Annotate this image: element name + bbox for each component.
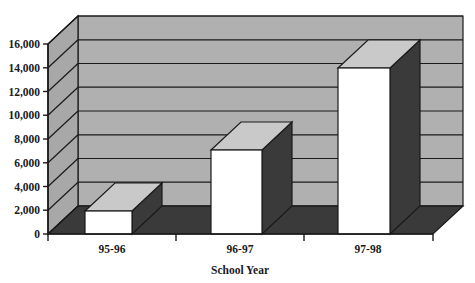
x-axis-title: School Year [211, 264, 269, 276]
chart-container: 0 2,000 4,000 6,000 8,000 10,000 12,000 … [0, 0, 475, 283]
x-tick-label-96-97: 96-97 [227, 243, 254, 255]
bar-front-face [338, 68, 390, 234]
y-tick-label-14000: 14,000 [8, 62, 40, 74]
x-tick-label-95-96: 95-96 [99, 243, 126, 255]
y-tick-label-6000: 6,000 [14, 157, 40, 169]
y-tick-label-0: 0 [34, 228, 40, 240]
x-axis-ticks [48, 234, 433, 241]
y-tick-label-8000: 8,000 [14, 133, 40, 145]
x-tick-label-97-98: 97-98 [355, 243, 382, 255]
y-tick-label-16000: 16,000 [8, 38, 40, 50]
bar-front-face [211, 150, 262, 234]
y-tick-label-12000: 12,000 [8, 86, 40, 98]
bar-side-face [390, 40, 420, 234]
bar-front-face [85, 211, 132, 234]
y-tick-label-4000: 4,000 [14, 181, 40, 193]
bar-97-98[interactable] [338, 40, 420, 234]
bar-chart-3d: 0 2,000 4,000 6,000 8,000 10,000 12,000 … [0, 0, 475, 283]
y-tick-label-10000: 10,000 [8, 109, 40, 121]
y-tick-label-2000: 2,000 [14, 204, 40, 216]
bar-96-97[interactable] [211, 122, 292, 234]
